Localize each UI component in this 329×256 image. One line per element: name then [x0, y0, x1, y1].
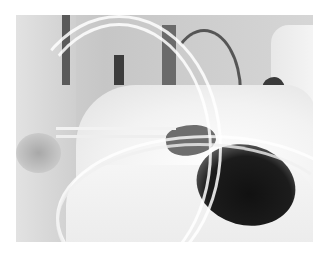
photo: Grayscale photograph of a patient lying …	[16, 15, 313, 242]
tube-horizontal-2	[56, 135, 166, 138]
tube-horizontal-1	[56, 127, 176, 130]
